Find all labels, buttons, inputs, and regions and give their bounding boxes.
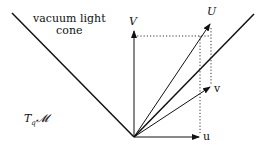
tangent-space-label: Tq𝓜 bbox=[24, 113, 48, 127]
manifold-M: 𝓜 bbox=[36, 112, 48, 125]
label-V: V bbox=[129, 16, 137, 27]
label-v: v bbox=[214, 83, 220, 94]
light-cone-right bbox=[134, 14, 254, 137]
light-cone-label-line2: cone bbox=[33, 25, 106, 37]
light-cone-label: vacuum light cone bbox=[33, 13, 106, 37]
vector-v bbox=[134, 87, 210, 137]
label-U: U bbox=[207, 6, 216, 17]
vector-U bbox=[134, 24, 210, 137]
label-u: u bbox=[203, 131, 210, 142]
